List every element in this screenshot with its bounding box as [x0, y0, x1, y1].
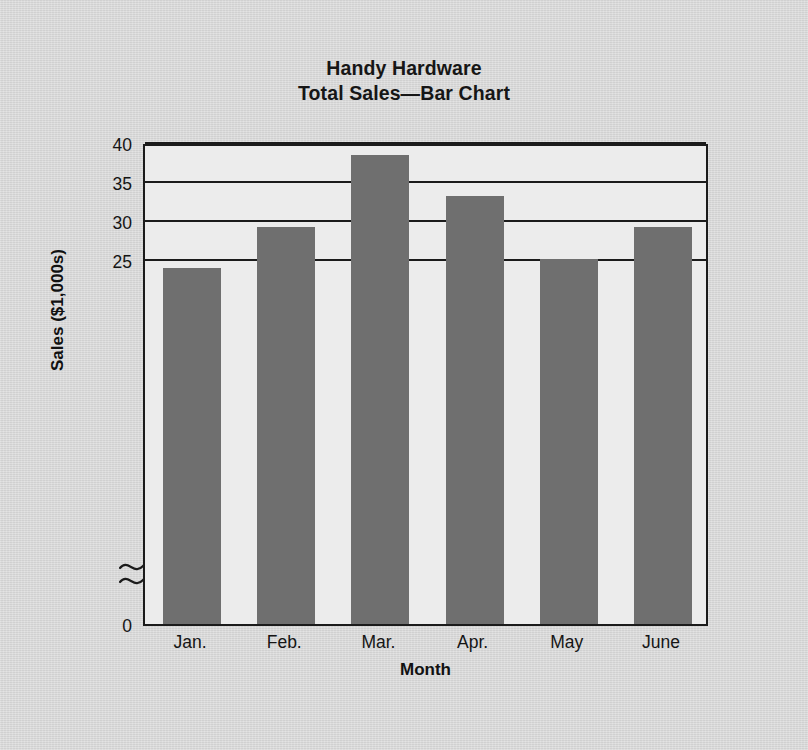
y-tick-label-35: 35: [88, 174, 132, 195]
x-tick-label-mar: Mar.: [331, 632, 425, 653]
x-tick-label-jan: Jan.: [143, 632, 237, 653]
x-tick-label-may: May: [520, 632, 614, 653]
bar-may[interactable]: [540, 259, 598, 624]
gridline-40: [145, 142, 706, 144]
y-tick-label-40: 40: [88, 135, 132, 156]
x-axis-tick-labels: Jan.Feb.Mar.Apr.MayJune: [143, 632, 708, 658]
x-tick-label-june: June: [614, 632, 708, 653]
x-axis-title: Month: [143, 660, 708, 680]
y-axis-tick-labels: 025303540: [84, 0, 132, 750]
bar-jan[interactable]: [163, 268, 221, 624]
y-axis-title: Sales ($1,000s): [48, 190, 68, 430]
gridline-25: [145, 259, 706, 261]
y-tick-label-0: 0: [88, 616, 132, 637]
y-tick-label-25: 25: [88, 252, 132, 273]
bar-june[interactable]: [634, 227, 692, 624]
bar-apr[interactable]: [446, 196, 504, 624]
y-tick-label-30: 30: [88, 213, 132, 234]
x-tick-label-apr: Apr.: [426, 632, 520, 653]
x-tick-label-feb: Feb.: [237, 632, 331, 653]
bar-feb[interactable]: [257, 227, 315, 624]
chart-page: Handy Hardware Total Sales—Bar Chart 025…: [0, 0, 808, 750]
plot-area: [143, 144, 708, 626]
gridline-35: [145, 181, 706, 183]
bar-mar[interactable]: [351, 155, 409, 624]
gridline-30: [145, 220, 706, 222]
